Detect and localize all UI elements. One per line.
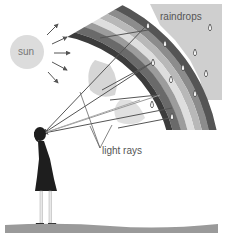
light-rays-label: light rays <box>102 145 142 156</box>
ground <box>5 224 218 233</box>
raindrops-label: raindrops <box>160 11 202 22</box>
sun-label: sun <box>18 46 34 57</box>
observer-girl <box>34 127 57 226</box>
sun-rays <box>47 24 70 83</box>
diagram-canvas <box>0 0 225 237</box>
rainbow-diagram: sun raindrops light rays <box>0 0 225 237</box>
